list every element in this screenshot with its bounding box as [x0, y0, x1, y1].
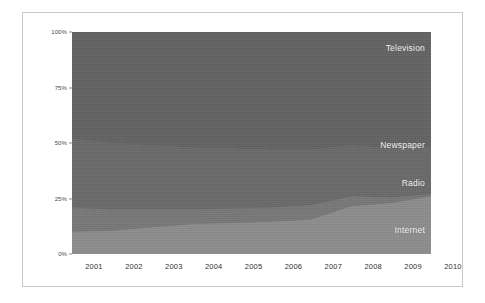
y-tick-label-50: 50%	[23, 140, 67, 146]
plot-area: Television Newspaper Radio Internet	[72, 32, 431, 254]
x-tick-label-2002: 2002	[125, 262, 143, 271]
series-label-radio: Radio	[402, 178, 425, 188]
x-tick-label-2004: 2004	[205, 262, 223, 271]
series-label-newspaper: Newspaper	[380, 140, 425, 150]
area-band-television	[72, 32, 431, 150]
series-label-television: Television	[386, 43, 425, 53]
x-tick-label-2009: 2009	[404, 262, 422, 271]
x-tick-label-2003: 2003	[165, 262, 183, 271]
figure-frame: 100% 75% 50% 25% 0% Television Newspap	[22, 12, 463, 287]
area-series-svg	[72, 32, 431, 254]
x-tick-label-2006: 2006	[285, 262, 303, 271]
x-tick-label-2008: 2008	[364, 262, 382, 271]
x-tick-label-2001: 2001	[85, 262, 103, 271]
x-tick-label-2010: 2010	[444, 262, 462, 271]
x-tick-label-2007: 2007	[325, 262, 343, 271]
series-label-internet: Internet	[395, 225, 425, 235]
y-tick-label-25: 25%	[23, 196, 67, 202]
x-tick-label-2005: 2005	[245, 262, 263, 271]
y-tick-label-0: 0%	[23, 251, 67, 257]
y-tick-label-75: 75%	[23, 85, 67, 91]
y-tick-label-100: 100%	[23, 29, 67, 35]
stacked-area-chart: 100% 75% 50% 25% 0% Television Newspap	[23, 13, 462, 286]
